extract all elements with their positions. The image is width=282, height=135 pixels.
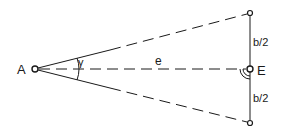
point-top-marker <box>248 11 253 16</box>
label-half-b-bottom: b/2 <box>253 92 268 104</box>
point-bottom-marker <box>248 121 253 126</box>
label-a: A <box>17 62 26 77</box>
lower-ray-solid <box>38 70 110 88</box>
point-e-marker <box>247 66 253 72</box>
upper-ray-solid <box>38 50 110 68</box>
lower-ray-dashed <box>110 88 247 122</box>
label-e: e <box>155 54 162 68</box>
angle-diagram: A γ e E b/2 b/2 <box>0 0 282 135</box>
label-gamma: γ <box>78 56 84 68</box>
label-E: E <box>257 63 266 78</box>
upper-ray-dashed <box>110 14 247 50</box>
diagram-canvas: A γ e E b/2 b/2 <box>0 0 282 135</box>
point-a-marker <box>32 66 38 72</box>
label-half-b-top: b/2 <box>253 36 268 48</box>
